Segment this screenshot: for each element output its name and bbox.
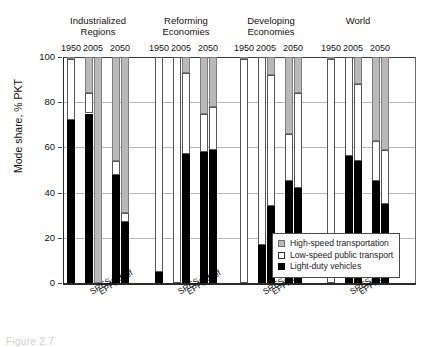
axis-right xyxy=(415,57,416,283)
legend-label: Light-duty vehicles xyxy=(290,261,361,273)
bar-segment-low-speed xyxy=(155,57,163,272)
bar-segment-light-duty xyxy=(112,175,120,283)
bar-segment-low-speed xyxy=(85,93,93,113)
year-label: 2005 xyxy=(79,43,107,53)
bar-segment-high-speed xyxy=(285,57,293,134)
bar xyxy=(85,57,93,283)
bar-segment-light-duty xyxy=(121,222,129,283)
bar-segment-low-speed xyxy=(240,59,248,283)
bar-segment-low-speed xyxy=(121,213,129,222)
figure-caption: Figure 2.7 xyxy=(6,336,54,347)
bar xyxy=(121,57,129,283)
bar xyxy=(240,57,248,283)
bar-segment-high-speed xyxy=(327,57,335,59)
year-label: 2050 xyxy=(279,43,307,53)
bar-segment-light-duty xyxy=(200,152,208,283)
bar-segment-high-speed xyxy=(372,57,380,141)
legend-swatch-light_duty xyxy=(278,263,285,270)
y-tick-label: 20 xyxy=(31,232,55,243)
y-tick-label: 80 xyxy=(31,96,55,107)
y-tick-label: 40 xyxy=(31,187,55,198)
bar-segment-high-speed xyxy=(112,57,120,161)
bar-segment-high-speed xyxy=(209,57,217,107)
group-title-3: World xyxy=(315,16,401,27)
year-label: 2005 xyxy=(167,43,195,53)
bar-segment-light-duty xyxy=(85,114,93,284)
bar-segment-low-speed xyxy=(182,73,190,154)
y-tick-mark xyxy=(58,238,62,239)
bar-segment-low-speed xyxy=(294,93,302,188)
legend-item-light_duty: Light-duty vehicles xyxy=(278,261,393,273)
bar-segment-high-speed xyxy=(200,57,208,114)
bar-segment-light-duty xyxy=(155,272,163,283)
y-tick-label: 100 xyxy=(31,51,55,62)
bar-segment-high-speed xyxy=(85,57,93,93)
bar xyxy=(182,57,190,283)
bar-segment-low-speed xyxy=(173,57,181,283)
legend-label: Low-speed public transport xyxy=(290,250,393,262)
group-title-0: Industrialized Regions xyxy=(55,16,141,37)
bar-segment-low-speed xyxy=(200,114,208,152)
legend-swatch-high_speed xyxy=(278,240,285,247)
group-title-2: Developing Economies xyxy=(228,16,314,37)
bar-segment-high-speed xyxy=(381,57,389,150)
bar-segment-light-duty xyxy=(67,120,75,283)
bar xyxy=(258,57,266,283)
figure-container: Figure 2.7 020406080100Mode share, % PKT… xyxy=(0,0,437,347)
y-tick-label: 60 xyxy=(31,141,55,152)
bar-segment-low-speed xyxy=(112,161,120,175)
bar xyxy=(200,57,208,283)
legend-swatch-low_speed xyxy=(278,252,285,259)
bar-segment-low-speed xyxy=(354,84,362,161)
legend-item-low_speed: Low-speed public transport xyxy=(278,250,393,262)
year-label: 2005 xyxy=(252,43,280,53)
y-tick-label: 0 xyxy=(31,277,55,288)
bar-segment-low-speed xyxy=(285,134,293,181)
bar xyxy=(155,57,163,283)
year-label: 2050 xyxy=(106,43,134,53)
bar xyxy=(94,57,102,283)
bar-segment-high-speed xyxy=(121,57,129,213)
bar-segment-light-duty xyxy=(209,150,217,283)
bar-segment-high-speed xyxy=(294,57,302,93)
axis-y xyxy=(63,57,64,283)
bar-segment-low-speed xyxy=(67,59,75,120)
bar-segment-low-speed xyxy=(372,141,380,182)
bar xyxy=(67,57,75,283)
bar-segment-high-speed xyxy=(67,57,75,59)
y-tick-mark xyxy=(58,57,62,58)
legend-item-high_speed: High-speed transportation xyxy=(278,238,393,250)
bar-segment-high-speed xyxy=(240,57,248,59)
bar-segment-low-speed xyxy=(381,150,389,204)
bar-segment-low-speed xyxy=(267,75,275,206)
y-tick-mark xyxy=(58,283,62,284)
y-tick-mark xyxy=(58,193,62,194)
year-label: 2005 xyxy=(339,43,367,53)
year-label: 2050 xyxy=(366,43,394,53)
bar xyxy=(209,57,217,283)
bar xyxy=(112,57,120,283)
bar-segment-high-speed xyxy=(354,57,362,84)
bar xyxy=(173,57,181,283)
bar-segment-high-speed xyxy=(267,57,275,75)
bar-segment-low-speed xyxy=(345,57,353,156)
bar-segment-light-duty xyxy=(258,245,266,283)
legend-label: High-speed transportation xyxy=(290,238,389,250)
y-tick-mark xyxy=(58,147,62,148)
bar-segment-light-duty xyxy=(182,154,190,283)
bar-segment-high-speed xyxy=(94,57,102,283)
y-tick-mark xyxy=(58,102,62,103)
bar-segment-low-speed xyxy=(258,57,266,245)
bar-segment-high-speed xyxy=(182,57,190,73)
bar-segment-low-speed xyxy=(209,107,217,150)
legend: High-speed transportationLow-speed publi… xyxy=(272,233,400,278)
group-title-1: Reforming Economies xyxy=(143,16,229,37)
year-label: 2050 xyxy=(194,43,222,53)
y-axis-title: Mode share, % PKT xyxy=(12,51,24,201)
